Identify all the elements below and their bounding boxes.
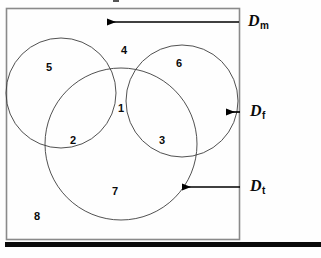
set-label-dm: Dm [248, 13, 268, 31]
region-label-6: 6 [172, 58, 186, 69]
set-label-dm-subscript: m [260, 20, 269, 31]
region-label-2: 2 [66, 135, 80, 146]
set-label-dt: Dt [250, 178, 265, 196]
set-label-df-base: D [250, 102, 262, 119]
set-label-df-subscript: f [262, 110, 265, 121]
region-label-1: 1 [114, 103, 128, 114]
set-label-dt-subscript: t [262, 185, 265, 196]
set-label-dt-base: D [250, 177, 262, 194]
region-label-4: 4 [117, 45, 131, 56]
bottom-rule [5, 242, 321, 247]
region-label-8: 8 [30, 211, 44, 222]
region-label-3: 3 [155, 135, 169, 146]
set-label-dm-base: D [248, 12, 260, 29]
figure-canvas: 1 2 3 4 5 6 7 8 Dm Df Dt [0, 0, 321, 258]
venn-diagram-graphic [0, 0, 321, 258]
crop-artifact-mark [113, 0, 119, 2]
set-label-df: Df [250, 103, 265, 121]
region-label-7: 7 [108, 186, 122, 197]
region-label-5: 5 [42, 62, 56, 73]
